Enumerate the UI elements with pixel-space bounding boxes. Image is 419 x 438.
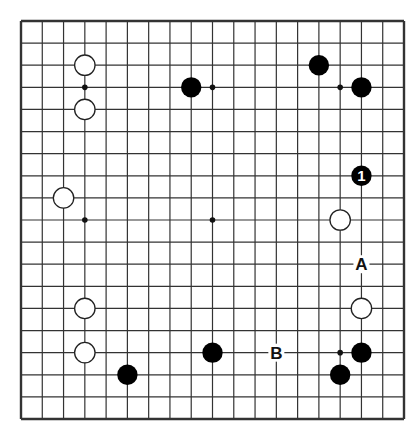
black-stone	[330, 365, 350, 385]
star-point	[82, 85, 88, 91]
star-point	[210, 85, 216, 91]
black-stone	[181, 77, 201, 97]
star-point	[337, 85, 343, 91]
star-point	[337, 350, 343, 356]
svg-text:A: A	[355, 255, 367, 274]
white-stone	[53, 188, 73, 208]
white-stone	[75, 298, 95, 318]
black-stone	[351, 342, 371, 362]
white-stone	[330, 210, 350, 230]
white-stone	[75, 342, 95, 362]
go-board: AB 1	[0, 0, 419, 438]
point-label-b: B	[268, 344, 284, 363]
point-label-a: A	[353, 255, 369, 274]
svg-text:B: B	[270, 344, 282, 363]
white-stone	[351, 298, 371, 318]
star-point	[210, 217, 216, 223]
black-stone	[202, 342, 222, 362]
white-stone	[75, 99, 95, 119]
black-stone	[309, 55, 329, 75]
white-stone	[75, 55, 95, 75]
black-stone-1: 1	[351, 166, 371, 186]
star-point	[82, 217, 88, 223]
svg-text:1: 1	[357, 167, 365, 184]
black-stone	[351, 77, 371, 97]
black-stone	[117, 365, 137, 385]
